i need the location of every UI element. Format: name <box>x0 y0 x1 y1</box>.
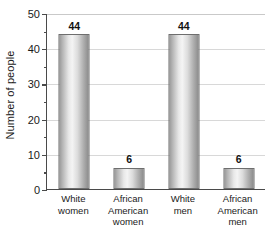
y-axis-tick-label: 10 <box>18 149 40 160</box>
x-axis-category-label-line: men <box>156 205 211 217</box>
x-axis-category-label: AfricanAmericanmen <box>210 193 265 228</box>
y-axis-tick <box>42 190 47 191</box>
bar-value-label: 6 <box>236 154 242 165</box>
x-axis-category-label: AfricanAmericanwomen <box>101 193 156 228</box>
x-axis-category-label-line: American <box>210 205 265 217</box>
plot-area: 446446 <box>46 14 265 190</box>
y-axis-tick-label: 50 <box>18 9 40 20</box>
y-axis-tick-labels: 01020304050 <box>18 0 44 232</box>
bar-slot: 6 <box>102 14 157 189</box>
bar[interactable] <box>59 34 90 189</box>
x-axis-category-label-line: African <box>101 193 156 205</box>
bar-value-label: 44 <box>178 21 190 32</box>
y-axis-tick-label: 30 <box>18 79 40 90</box>
x-axis-category-label-line: women <box>46 205 101 217</box>
y-axis-tick-label: 40 <box>18 44 40 55</box>
bar[interactable] <box>114 168 145 189</box>
y-axis-title: Number of people <box>0 0 20 190</box>
bar-chart: Number of people 01020304050 446446 Whit… <box>0 0 272 232</box>
x-axis-category-label-line: White <box>46 193 101 205</box>
y-axis-tick-label: 20 <box>18 114 40 125</box>
x-axis-tick-labels: WhitewomenAfricanAmericanwomenWhitemenAf… <box>46 193 265 232</box>
x-axis-category-label-line: African <box>210 193 265 205</box>
bar-value-label: 44 <box>69 21 81 32</box>
bar-slot: 44 <box>47 14 102 189</box>
x-axis-category-label-line: White <box>156 193 211 205</box>
y-axis-title-label: Number of people <box>4 50 16 139</box>
bar[interactable] <box>223 168 254 189</box>
x-axis-category-label: Whitewomen <box>46 193 101 216</box>
bar-slot: 6 <box>211 14 266 189</box>
x-axis-category-label-line: women <box>101 216 156 228</box>
bar[interactable] <box>168 34 199 189</box>
x-axis-category-label-line: men <box>210 216 265 228</box>
x-axis-category-label-line: American <box>101 205 156 217</box>
bar-value-label: 6 <box>126 154 132 165</box>
bar-slot: 44 <box>157 14 212 189</box>
x-axis-category-label: Whitemen <box>156 193 211 216</box>
y-axis-tick-label: 0 <box>18 185 40 196</box>
